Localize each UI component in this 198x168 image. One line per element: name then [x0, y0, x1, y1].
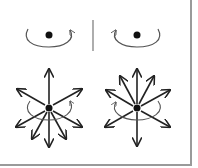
center-dot — [134, 105, 141, 112]
diagram-canvas — [0, 0, 198, 168]
arrow-icon-up-left — [17, 89, 45, 105]
panel-top-left-rotation — [26, 29, 71, 47]
center-dot — [46, 105, 53, 112]
panel-top-right-rotation — [114, 29, 159, 47]
center-dot — [134, 32, 141, 39]
panel-bottom-left-radial — [16, 69, 82, 147]
panel-bottom-right-radial — [105, 69, 170, 146]
arrow-icon-up-right — [53, 89, 82, 105]
center-dot — [46, 32, 53, 39]
